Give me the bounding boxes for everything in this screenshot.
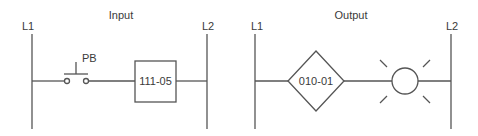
pushbutton-icon <box>64 62 89 84</box>
input-l1-label: L1 <box>22 20 34 32</box>
input-address-label: 111-05 <box>139 75 172 87</box>
output-section: Output L1 L2 010-01 <box>251 9 458 129</box>
ladder-diagram: Input L1 L2 PB 111-05 Output <box>0 0 478 136</box>
output-l2-label: L2 <box>446 20 458 32</box>
input-section: Input L1 L2 PB 111-05 <box>22 9 214 129</box>
output-l1-label: L1 <box>251 20 263 32</box>
pushbutton-label: PB <box>82 52 97 64</box>
diagram-svg: Input L1 L2 PB 111-05 Output <box>0 0 478 136</box>
input-title: Input <box>109 9 133 21</box>
output-address-label: 010-01 <box>299 75 333 87</box>
input-l2-label: L2 <box>202 20 214 32</box>
output-title: Output <box>334 9 367 21</box>
